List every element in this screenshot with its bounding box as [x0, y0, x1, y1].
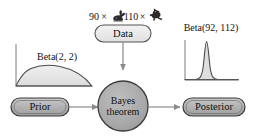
- posterior-node-label: Posterior: [195, 101, 233, 112]
- bayes-theorem-node[interactable]: Bayes theorem: [98, 81, 148, 131]
- bayesian-diagram: 90 × 110 × Data Beta(2, 2): [0, 0, 255, 139]
- prior-density-curve: [16, 65, 92, 86]
- prior-node-label: Prior: [30, 101, 52, 112]
- data-node[interactable]: Data: [95, 25, 151, 42]
- rabbit-count-label: 90: [89, 11, 99, 22]
- posterior-density-curve: [185, 42, 238, 80]
- diagram-canvas: 90 × 110 × Data Beta(2, 2): [0, 0, 255, 139]
- bayes-theorem-label-line2: theorem: [107, 106, 140, 117]
- chicken-times-symbol: ×: [140, 11, 146, 22]
- chicken-count-label: 110: [124, 11, 139, 22]
- prior-node[interactable]: Prior: [11, 98, 69, 116]
- prior-chart-title: Beta(2, 2): [37, 51, 77, 63]
- posterior-chart-title: Beta(92, 112): [184, 22, 239, 34]
- data-node-label: Data: [113, 28, 133, 39]
- prior-chart: Beta(2, 2): [16, 44, 92, 86]
- chicken-icon: [150, 9, 162, 21]
- posterior-chart: Beta(92, 112): [184, 22, 239, 80]
- bayes-theorem-label-line1: Bayes: [111, 95, 136, 106]
- data-counts-row: 90 × 110 ×: [89, 9, 162, 22]
- rabbit-times-symbol: ×: [101, 11, 107, 22]
- posterior-node[interactable]: Posterior: [183, 98, 245, 116]
